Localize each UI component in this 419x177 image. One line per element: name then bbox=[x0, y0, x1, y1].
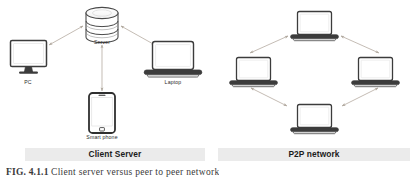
connection-peer-right-peer-bottom bbox=[342, 88, 378, 106]
node-label-smart-phone: Smart phone bbox=[86, 134, 117, 140]
laptop-icon bbox=[291, 105, 339, 134]
smartphone-icon bbox=[89, 93, 115, 133]
connection-peer-top-peer-left bbox=[250, 36, 288, 53]
connection-server-pc bbox=[49, 26, 83, 45]
figure-caption: FIG. 4.1.1 Client server versus peer to … bbox=[6, 167, 219, 177]
laptop-icon bbox=[352, 58, 400, 87]
client-server-title: Client Server bbox=[89, 149, 142, 159]
connection-server-laptop bbox=[121, 26, 155, 45]
p2p-network-title: P2P network bbox=[288, 149, 339, 159]
figure-caption-text: Client server versus peer to peer networ… bbox=[51, 167, 219, 177]
node-label-laptop: Laptop bbox=[165, 79, 182, 85]
database-server-icon bbox=[86, 7, 118, 42]
figure-page: PC Server Laptop Smart phone Client Serv… bbox=[0, 0, 419, 177]
connection-peer-left-peer-bottom bbox=[251, 88, 287, 106]
node-label-pc: PC bbox=[24, 79, 32, 85]
desktop-monitor-icon bbox=[11, 41, 47, 74]
laptop-icon bbox=[230, 58, 278, 87]
laptop-icon bbox=[144, 42, 202, 78]
node-label-server: Server bbox=[94, 39, 110, 45]
connection-peer-top-peer-right bbox=[341, 36, 379, 53]
laptop-icon bbox=[291, 12, 339, 41]
figure-caption-number: FIG. 4.1.1 bbox=[6, 167, 49, 177]
